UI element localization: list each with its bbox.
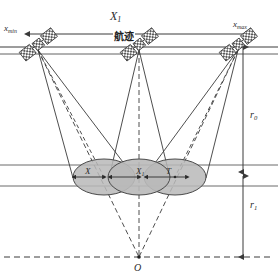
satellite-left bbox=[19, 28, 57, 61]
label-r1: r1 bbox=[250, 200, 257, 210]
beam-left bbox=[38, 50, 139, 257]
label-x-min: xmin bbox=[4, 24, 17, 33]
label-r0: r0 bbox=[250, 110, 257, 120]
label-footprint-x1: X1 bbox=[136, 167, 144, 176]
label-flight-track: 航迹 bbox=[113, 32, 135, 42]
label-footprint-x: X bbox=[85, 167, 91, 176]
beam-center bbox=[109, 50, 170, 257]
label-x-max: xmax bbox=[233, 20, 247, 29]
label-span-x1: X1 bbox=[110, 10, 121, 22]
satellite-right bbox=[219, 28, 257, 61]
label-footprint-t: T bbox=[166, 167, 171, 176]
diagram-canvas: xmin xmax X1 航迹 r0 r1 O X X1 T bbox=[0, 0, 278, 280]
beam-right bbox=[139, 50, 238, 257]
label-origin: O bbox=[134, 263, 141, 273]
diagram-svg bbox=[0, 0, 278, 280]
origin-baseline bbox=[4, 255, 270, 259]
